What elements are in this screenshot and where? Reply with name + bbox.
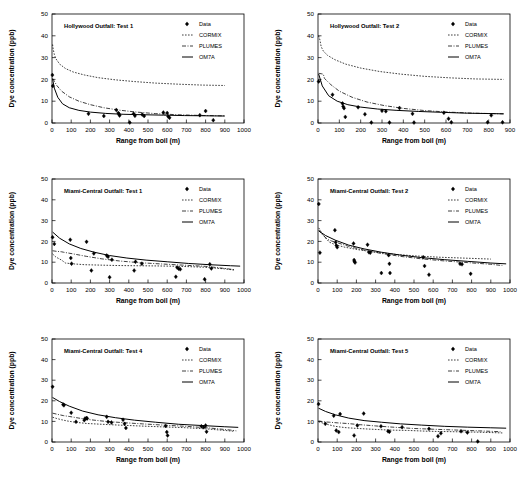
- x-axis-title: Range from boil (m): [382, 456, 446, 464]
- y-tick-label: 20: [41, 76, 48, 83]
- x-tick-label: 500: [143, 286, 154, 293]
- data-point: [53, 242, 56, 246]
- x-tick-label: 100: [332, 445, 343, 452]
- x-tick-label: 1000: [503, 445, 517, 452]
- x-tick-label: 0: [316, 286, 320, 293]
- x-tick-label: 300: [104, 286, 115, 293]
- x-tick-label: 200: [85, 286, 96, 293]
- chart-panel: 0102030405001002003004005006007008009001…: [0, 325, 266, 484]
- legend-label-data: Data: [465, 186, 478, 192]
- x-tick-label: 700: [447, 445, 458, 452]
- y-tick-label: 0: [311, 438, 315, 445]
- legend-marker-data: [451, 187, 454, 191]
- x-tick-label: 400: [124, 286, 135, 293]
- y-tick-label: 40: [41, 196, 48, 203]
- y-tick-label: 40: [307, 32, 314, 39]
- panel-title: Hollywood Outfall: Test 2: [330, 23, 399, 29]
- data-point: [204, 109, 207, 113]
- x-tick-label: 0: [316, 126, 320, 133]
- x-tick-label: 200: [356, 126, 367, 133]
- data-point: [208, 262, 211, 266]
- data-point: [212, 118, 215, 122]
- x-tick-label: 1000: [503, 286, 517, 293]
- x-tick-label: 500: [409, 445, 420, 452]
- data-point: [366, 243, 369, 247]
- x-tick-label: 300: [370, 445, 381, 452]
- x-tick-label: 700: [462, 126, 473, 133]
- data-point: [379, 424, 382, 428]
- y-tick-label: 30: [41, 376, 48, 383]
- chart-panel: 0102030405001002003004005006007008009001…: [266, 325, 532, 484]
- y-tick-label: 20: [307, 238, 314, 245]
- x-tick-label: 900: [505, 126, 516, 133]
- series-curve-om7a: [319, 408, 507, 428]
- data-point: [102, 114, 105, 118]
- legend-label-plumes: PLUMES: [465, 43, 488, 49]
- y-tick-label: 20: [41, 238, 48, 245]
- data-point: [370, 121, 373, 125]
- x-tick-label: 500: [143, 445, 154, 452]
- legend-label-plumes: PLUMES: [465, 368, 488, 374]
- series-curve-plumes: [319, 421, 501, 432]
- x-tick-label: 100: [66, 445, 77, 452]
- y-axis-title: Dye concentration (ppb): [274, 29, 282, 107]
- data-point: [344, 115, 347, 119]
- data-point: [318, 251, 321, 255]
- panel-title: Miami-Central Outfall: Test 4: [64, 348, 143, 354]
- data-point: [411, 112, 414, 116]
- data-point: [166, 433, 169, 437]
- data-point: [106, 420, 109, 424]
- figure-grid: 0102030405001002003004005006007008009001…: [0, 0, 532, 484]
- y-tick-label: 10: [41, 97, 48, 104]
- data-point: [450, 120, 453, 124]
- data-point: [352, 241, 355, 245]
- x-tick-label: 400: [124, 445, 135, 452]
- data-point: [412, 121, 415, 125]
- data-point: [476, 439, 479, 443]
- legend-label-cormix: CORMIX: [199, 357, 222, 363]
- y-tick-label: 10: [307, 258, 314, 265]
- data-point: [469, 272, 472, 276]
- y-tick-label: 10: [307, 97, 314, 104]
- legend-label-om7a: OM7A: [199, 54, 215, 60]
- x-tick-label: 100: [66, 126, 77, 133]
- data-point: [198, 113, 201, 117]
- data-point: [110, 258, 113, 262]
- y-tick-label: 50: [41, 10, 48, 17]
- y-tick-label: 40: [307, 196, 314, 203]
- data-point: [115, 108, 118, 112]
- y-axis-title: Dye concentration (ppb): [8, 192, 16, 270]
- data-point: [51, 235, 54, 239]
- data-point: [423, 264, 426, 268]
- legend-label-data: Data: [199, 346, 212, 352]
- x-tick-label: 900: [220, 286, 231, 293]
- data-point: [427, 427, 430, 431]
- data-point: [51, 73, 54, 77]
- data-point: [51, 385, 54, 389]
- x-tick-label: 0: [50, 445, 54, 452]
- y-tick-label: 30: [307, 217, 314, 224]
- x-tick-label: 600: [441, 126, 452, 133]
- legend-label-cormix: CORMIX: [465, 357, 488, 363]
- data-point: [388, 121, 391, 125]
- x-tick-label: 600: [162, 445, 173, 452]
- chart-panel: 010203040500100200300400500600700800900R…: [266, 0, 532, 165]
- y-tick-label: 20: [41, 397, 48, 404]
- x-tick-label: 100: [334, 126, 345, 133]
- x-tick-label: 200: [351, 286, 362, 293]
- legend-marker-data: [451, 22, 454, 26]
- data-point: [70, 411, 73, 415]
- x-axis-title: Range from boil (m): [116, 297, 180, 305]
- legend-marker-data: [185, 187, 188, 191]
- y-tick-label: 0: [311, 119, 315, 126]
- y-tick-label: 50: [307, 335, 314, 342]
- x-tick-label: 400: [390, 445, 401, 452]
- legend-label-om7a: OM7A: [465, 379, 481, 385]
- data-point: [317, 80, 320, 84]
- data-point: [439, 431, 442, 435]
- data-point: [70, 262, 73, 266]
- data-point: [398, 106, 401, 110]
- x-tick-label: 700: [447, 286, 458, 293]
- x-tick-label: 0: [50, 286, 54, 293]
- legend-label-plumes: PLUMES: [199, 368, 222, 374]
